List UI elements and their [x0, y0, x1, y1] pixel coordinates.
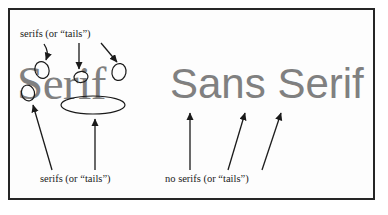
serif-highlight-ellipse-e-top: [73, 71, 88, 84]
serif-highlight-ellipse-f-top: [110, 62, 127, 82]
typography-serif-diagram: Serif Sans Serif serifs (or “tails”) ser…: [0, 0, 388, 215]
arrow-no-serif-to-n: [228, 113, 245, 170]
label-serifs-bottom-left: serifs (or “tails”): [40, 174, 111, 185]
arrow-bottom-left-to-s-foot: [33, 105, 52, 170]
arrow-top-to-f-serif: [101, 43, 117, 62]
serif-highlight-ellipse-s-top: [33, 60, 52, 80]
arrow-no-serif-to-serif-word: [262, 113, 281, 170]
arrow-top-to-s-serif: [44, 44, 47, 60]
label-serifs-top: serifs (or “tails”): [20, 29, 91, 40]
serif-highlight-ellipse-baseline: [61, 96, 125, 114]
serif-highlight-ellipse-s-bottom: [20, 84, 36, 103]
label-no-serifs-bottom-right: no serifs (or “tails”): [165, 174, 249, 185]
